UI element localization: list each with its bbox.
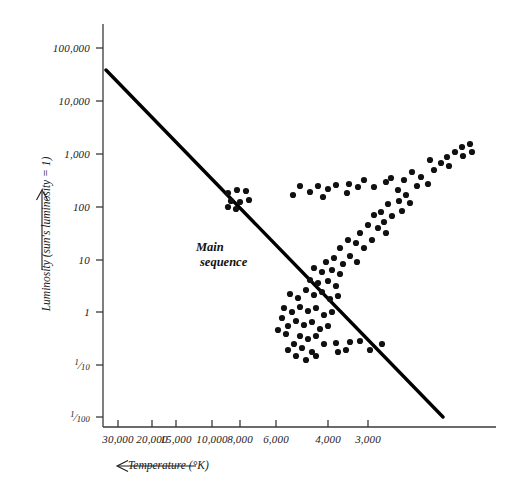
star-data-point [409, 169, 415, 175]
x-axis-title: Temperature (°K) [128, 459, 209, 471]
star-data-point [319, 289, 325, 295]
star-data-point [431, 167, 437, 173]
star-data-point [246, 197, 252, 203]
star-data-point [333, 283, 339, 289]
star-data-point [293, 353, 299, 359]
star-data-point [399, 208, 405, 214]
star-data-point [233, 206, 239, 212]
x-axis-tick-label: 30,000 [102, 433, 133, 445]
star-data-point [469, 149, 475, 155]
star-data-point [460, 153, 466, 159]
x-axis-tick-label: 4,000 [315, 433, 341, 445]
star-data-point [383, 179, 389, 185]
star-data-point [315, 280, 321, 286]
star-data-point [285, 323, 291, 329]
star-data-point [290, 192, 296, 198]
star-data-point [321, 341, 327, 347]
star-data-point [289, 309, 295, 315]
star-data-point [361, 177, 367, 183]
star-data-point [305, 308, 311, 314]
star-data-point [225, 190, 231, 196]
star-data-point [305, 336, 311, 342]
star-data-point [365, 222, 371, 228]
star-data-point [369, 237, 375, 243]
star-data-point [427, 157, 433, 163]
star-data-point [444, 154, 450, 160]
star-data-point [287, 291, 293, 297]
x-axis-tick-label: 8,000 [227, 433, 253, 445]
star-data-point [283, 331, 289, 337]
star-data-point [347, 339, 353, 345]
main-sequence-label: Main sequence [196, 240, 247, 271]
star-data-point [385, 201, 391, 207]
star-data-point [438, 160, 444, 166]
star-data-point [297, 304, 303, 310]
star-data-point [329, 267, 335, 273]
star-data-point [307, 189, 313, 195]
star-data-point [452, 149, 458, 155]
star-data-point [335, 293, 341, 299]
star-data-point [320, 194, 326, 200]
star-data-point [275, 327, 281, 333]
star-data-point [378, 209, 384, 215]
star-data-point [325, 323, 331, 329]
star-data-point [293, 318, 299, 324]
star-data-point [313, 333, 319, 339]
star-data-point [401, 177, 407, 183]
star-data-point [225, 204, 231, 210]
star-data-point [355, 184, 361, 190]
star-data-point [323, 259, 329, 265]
star-data-point [367, 347, 373, 353]
star-data-point [388, 175, 394, 181]
star-data-point [346, 181, 352, 187]
star-data-point [425, 181, 431, 187]
star-data-point [327, 296, 333, 302]
star-data-point [371, 184, 377, 190]
y-axis-title: Luminosity (sun's luminosity = 1) [40, 84, 52, 384]
star-data-point [234, 187, 240, 193]
main-sequence-label-line1: Main [196, 240, 224, 254]
star-data-point [301, 322, 307, 328]
star-data-point [414, 183, 420, 189]
star-data-point [295, 295, 301, 301]
star-data-point [381, 219, 387, 225]
main-sequence-label-line2: sequence [196, 255, 247, 270]
star-data-point [237, 199, 243, 205]
hr-diagram-figure: 100,00010,0001,0001001011⁄101⁄100 30,000… [0, 0, 519, 495]
star-data-point [357, 230, 363, 236]
star-data-point [337, 245, 343, 251]
star-data-point [446, 163, 452, 169]
star-data-point [315, 183, 321, 189]
star-data-point [313, 353, 319, 359]
star-data-point [335, 349, 341, 355]
star-data-point [467, 141, 473, 147]
star-data-point [361, 245, 367, 251]
star-data-point [333, 340, 339, 346]
star-data-point [344, 190, 350, 196]
star-data-point [418, 174, 424, 180]
star-data-point [347, 253, 353, 259]
star-data-point [297, 183, 303, 189]
star-data-point [395, 187, 401, 193]
star-data-point [325, 278, 331, 284]
star-data-point [357, 338, 363, 344]
x-axis-tick-label: 15,000 [160, 433, 191, 445]
star-data-point [243, 188, 249, 194]
star-data-point [407, 200, 413, 206]
star-data-point [371, 212, 377, 218]
star-data-point [313, 305, 319, 311]
x-axis-tick-label: 10,000 [196, 433, 227, 445]
star-data-point [403, 192, 409, 198]
star-data-point [321, 312, 327, 318]
star-data-point [297, 333, 303, 339]
star-data-point [311, 292, 317, 298]
y-axis-tick-label: 100,000 [0, 42, 90, 54]
star-data-point [303, 287, 309, 293]
star-data-point [307, 277, 313, 283]
star-data-point [396, 198, 402, 204]
star-data-point [340, 261, 346, 267]
star-data-point [354, 259, 360, 265]
star-data-point [319, 269, 325, 275]
star-data-point [389, 213, 395, 219]
star-data-point [299, 345, 305, 351]
